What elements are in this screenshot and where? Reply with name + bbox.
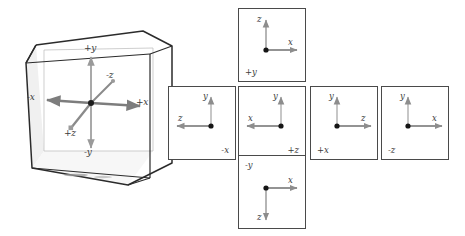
face-minus-y-vertical-label: z — [256, 212, 262, 222]
face-minus-x-origin-dot — [208, 123, 213, 128]
cubemap-face-plus-y[interactable]: z x +y — [238, 8, 306, 82]
face-plus-y-vertical-label: z — [256, 14, 262, 24]
face-minus-z-vertical-label: y — [399, 91, 405, 101]
cubemap-face-plus-z-name: +z — [287, 145, 299, 155]
face-plus-z-origin-dot — [278, 123, 283, 128]
cubemap-diagram: z x +y y z -x — [0, 0, 465, 236]
cubemap-face-plus-y-name: +y — [245, 67, 257, 77]
face-plus-z-vertical-label: y — [272, 91, 278, 101]
cubemap-face-plus-x[interactable]: y z +x — [310, 86, 378, 160]
face-plus-x-origin-dot — [334, 123, 339, 128]
face-minus-z-horizontal-label: x — [432, 113, 437, 123]
face-plus-x-vertical-label: y — [328, 91, 334, 101]
cubemap-face-plus-x-name: +x — [317, 145, 329, 155]
cubemap-face-minus-y-name: -y — [245, 160, 253, 170]
cubemap-face-minus-y[interactable]: x z -y — [238, 155, 306, 229]
face-minus-y-origin-dot — [263, 185, 268, 190]
face-minus-y-horizontal-label: x — [288, 175, 293, 185]
cubemap-face-minus-z[interactable]: y x -z — [381, 86, 449, 160]
cubemap-face-plus-z[interactable]: y x +z — [238, 86, 306, 160]
face-minus-x-vertical-label: y — [202, 91, 208, 101]
cubemap-face-minus-z-name: -z — [388, 145, 395, 155]
face-plus-z-horizontal-label: x — [248, 113, 253, 123]
face-minus-x-horizontal-label: z — [177, 113, 183, 123]
cubemap-face-minus-x[interactable]: y z -x — [168, 86, 236, 160]
cubemap-face-minus-x-name: -x — [221, 145, 229, 155]
face-plus-y-origin-dot — [263, 47, 268, 52]
figure-root: +y -y +x -x +z -z z x +y — [0, 0, 465, 236]
face-plus-y-horizontal-label: x — [288, 37, 293, 47]
face-plus-x-horizontal-label: z — [360, 113, 366, 123]
face-minus-z-origin-dot — [405, 123, 410, 128]
